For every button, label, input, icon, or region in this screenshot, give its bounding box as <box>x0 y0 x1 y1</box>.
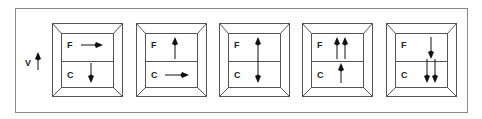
bevel-line <box>220 24 229 34</box>
bevel-line <box>448 88 457 97</box>
arrow-down-icon <box>255 61 261 83</box>
arrow-up-icon <box>334 37 340 59</box>
arrow-right-icon <box>81 42 103 48</box>
arrow-up-icon <box>342 37 348 59</box>
bevel-line <box>303 24 312 34</box>
bevel-line <box>364 24 373 34</box>
arrow-up-icon <box>255 37 261 61</box>
velocity-up-arrow-icon <box>35 52 41 70</box>
label-c: C <box>401 70 408 80</box>
arrow-down-icon <box>88 63 94 83</box>
bevel-line <box>364 88 373 97</box>
bevel-line <box>114 88 123 97</box>
bevel-line <box>448 24 457 34</box>
label-f: F <box>67 40 73 50</box>
label-c: C <box>151 70 158 80</box>
bevel-line <box>114 24 123 34</box>
bevel-line <box>53 88 62 97</box>
arrow-down-icon <box>424 59 430 83</box>
bevel-line <box>303 88 312 97</box>
arrow-right-icon <box>165 72 189 78</box>
panel-1: FC <box>53 24 123 97</box>
bevel-line <box>198 88 207 97</box>
legend-label: V <box>25 58 31 68</box>
bevel-line <box>220 88 229 97</box>
panel-4: FC <box>303 24 373 97</box>
diagram: V FCFCFCFCFC <box>0 0 482 119</box>
panel-5: FC <box>387 24 457 97</box>
panel-outer-border <box>220 24 290 97</box>
velocity-legend: V <box>25 52 41 70</box>
bevel-line <box>198 24 207 34</box>
arrow-up-icon <box>172 37 178 59</box>
label-f: F <box>234 40 240 50</box>
panel-2: FC <box>137 24 207 97</box>
panel-outer-border <box>137 24 207 97</box>
arrow-down-icon <box>432 59 438 83</box>
label-f: F <box>151 40 157 50</box>
bevel-line <box>281 88 290 97</box>
bevel-line <box>387 88 396 97</box>
bevel-line <box>53 24 62 34</box>
label-f: F <box>317 40 323 50</box>
label-c: C <box>317 70 324 80</box>
bevel-line <box>281 24 290 34</box>
arrow-down-icon <box>428 37 434 59</box>
bevel-line <box>387 24 396 34</box>
bevel-line <box>137 24 146 34</box>
panel-outer-border <box>53 24 123 97</box>
label-c: C <box>234 70 241 80</box>
bevel-line <box>137 88 146 97</box>
panel-outer-border <box>303 24 373 97</box>
label-c: C <box>67 70 74 80</box>
panel-outer-border <box>387 24 457 97</box>
panel-3: FC <box>220 24 290 97</box>
label-f: F <box>401 40 407 50</box>
arrow-up-icon <box>338 63 344 83</box>
